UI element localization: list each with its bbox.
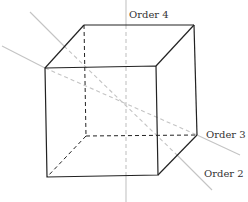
axis-order-2 [30,12,212,190]
cube-hidden-edges [47,25,197,177]
label-order-4: Order 4 [129,9,169,20]
label-order-2: Order 2 [204,168,244,179]
cube-diagram: Order 4 Order 3 Order 2 [0,0,248,202]
label-order-3: Order 3 [206,129,246,140]
